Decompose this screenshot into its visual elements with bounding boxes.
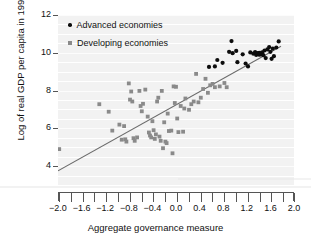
series-developing-economies xyxy=(58,72,229,155)
scan-artifact xyxy=(0,186,311,188)
data-point xyxy=(151,119,155,123)
data-point xyxy=(129,90,133,94)
data-point xyxy=(155,100,159,104)
x-tick-label: 1.6 xyxy=(264,203,277,213)
legend: Advanced economies Developing economies xyxy=(68,18,168,54)
data-point xyxy=(160,89,164,93)
x-tick-label: −1.6 xyxy=(73,203,91,213)
x-tick-label: 2.0 xyxy=(288,203,301,213)
data-point xyxy=(152,128,156,132)
x-tick-mark xyxy=(294,193,295,202)
y-tick-label: 4 xyxy=(46,161,51,170)
data-point xyxy=(133,139,137,143)
data-point xyxy=(161,146,165,150)
data-point xyxy=(194,72,198,76)
data-point xyxy=(97,102,101,106)
data-point xyxy=(267,45,271,49)
data-point xyxy=(141,102,145,106)
data-point xyxy=(199,96,203,100)
legend-label-advanced: Advanced economies xyxy=(77,20,163,30)
x-tick-mark xyxy=(94,193,95,202)
data-point xyxy=(110,129,114,133)
legend-marker-developing-icon xyxy=(68,41,72,45)
x-tick-mark xyxy=(283,193,284,202)
data-point xyxy=(231,51,235,55)
x-axis-ticks xyxy=(58,192,294,201)
data-point xyxy=(277,39,281,43)
x-tick-label: 0.8 xyxy=(217,203,230,213)
data-point xyxy=(153,137,157,141)
y-tick-label: 8 xyxy=(46,86,51,95)
legend-marker-advanced-icon xyxy=(68,23,72,27)
x-tick-mark xyxy=(236,193,237,202)
y-tick-label: 10 xyxy=(41,48,51,57)
data-point xyxy=(225,85,229,89)
data-point xyxy=(204,77,208,81)
data-point xyxy=(135,136,139,140)
data-point xyxy=(125,140,129,144)
data-point xyxy=(207,65,211,69)
y-tick-label: 12 xyxy=(41,10,51,19)
data-point xyxy=(213,64,217,68)
x-tick-label: −0.4 xyxy=(144,203,162,213)
data-point xyxy=(218,85,222,89)
x-tick-mark xyxy=(59,193,60,202)
legend-label-developing: Developing economies xyxy=(77,38,168,48)
x-axis-title: Aggregate governance measure xyxy=(0,222,311,233)
data-point xyxy=(184,97,188,101)
data-point xyxy=(173,101,177,105)
data-point xyxy=(166,112,170,116)
data-point xyxy=(274,45,278,49)
x-tick-mark xyxy=(130,193,131,202)
data-point xyxy=(107,110,111,114)
x-tick-mark xyxy=(260,193,261,202)
x-tick-label: 1.2 xyxy=(241,203,254,213)
data-point xyxy=(264,56,268,60)
chart-figure: 4681012 Log of real GDP per capita in 19… xyxy=(0,0,311,247)
data-point xyxy=(143,88,147,92)
x-tick-label: 0.0 xyxy=(170,203,183,213)
data-point xyxy=(158,135,162,139)
x-tick-mark xyxy=(118,193,119,202)
data-point xyxy=(175,117,179,121)
data-point xyxy=(165,141,169,145)
x-tick-mark xyxy=(142,193,143,202)
data-point xyxy=(246,64,250,68)
data-point xyxy=(234,49,238,53)
data-point xyxy=(130,100,134,104)
plot-area: Advanced economies Developing economies xyxy=(58,15,294,185)
data-point xyxy=(140,109,144,113)
data-point xyxy=(138,89,142,93)
x-tick-label: −2.0 xyxy=(49,203,67,213)
data-point xyxy=(146,115,150,119)
data-point xyxy=(154,133,158,137)
data-point xyxy=(118,123,122,127)
data-point xyxy=(201,87,205,91)
scan-artifact xyxy=(178,178,311,180)
legend-item-advanced: Advanced economies xyxy=(68,18,168,32)
data-point xyxy=(223,81,227,85)
y-axis: 4681012 xyxy=(0,0,58,200)
data-point xyxy=(169,129,173,133)
data-point xyxy=(174,85,178,89)
data-point xyxy=(156,96,160,100)
data-point xyxy=(192,100,196,104)
x-tick-mark xyxy=(224,193,225,202)
data-point xyxy=(171,151,175,155)
data-point xyxy=(229,39,233,43)
x-tick-mark xyxy=(248,193,249,202)
data-point xyxy=(213,85,217,89)
data-point xyxy=(149,136,153,140)
data-point xyxy=(197,100,201,104)
data-point xyxy=(241,52,245,56)
x-tick-mark xyxy=(189,193,190,202)
x-tick-mark xyxy=(71,193,72,202)
data-point xyxy=(179,104,183,108)
data-point xyxy=(127,82,131,86)
data-point xyxy=(206,91,210,95)
data-point xyxy=(58,147,61,151)
data-point xyxy=(215,58,219,62)
y-axis-title: Log of real GDP per capita in 1995 xyxy=(15,0,26,158)
y-tick-label: 6 xyxy=(46,123,51,132)
x-tick-mark xyxy=(153,193,154,202)
